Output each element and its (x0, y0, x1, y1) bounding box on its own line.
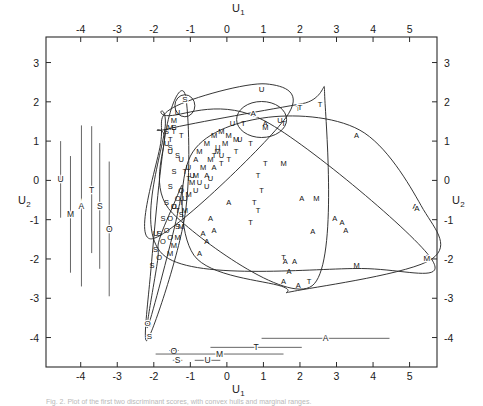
svg-text:-2: -2 (444, 253, 453, 265)
svg-text:-4: -4 (76, 23, 85, 35)
svg-text:T: T (226, 155, 231, 164)
svg-text:A: A (212, 163, 217, 172)
svg-text:A: A (286, 267, 291, 276)
svg-text:A: A (251, 109, 257, 118)
svg-text:5: 5 (407, 23, 413, 35)
svg-text:T: T (259, 186, 264, 195)
svg-text:S: S (182, 95, 187, 104)
svg-text:T: T (263, 159, 268, 168)
svg-text:-3: -3 (113, 370, 122, 382)
svg-text:A: A (208, 214, 213, 223)
scatter-plot: -4-4-3-3-2-2-1-100112233445533221100-1-1… (0, 0, 483, 406)
svg-text:T: T (256, 171, 261, 180)
svg-text:T: T (256, 206, 261, 215)
svg-text:S: S (147, 332, 152, 341)
svg-text:A: A (201, 229, 206, 238)
svg-text:S: S (168, 182, 173, 191)
svg-text:O: O (175, 194, 181, 203)
svg-text:2: 2 (297, 23, 303, 35)
svg-text:T: T (298, 103, 303, 112)
svg-text:A: A (354, 131, 359, 140)
svg-text:T: T (281, 253, 286, 262)
svg-text:A: A (226, 198, 231, 207)
svg-text:S: S (97, 201, 103, 211)
svg-text:O: O (167, 233, 173, 242)
svg-text:M: M (353, 261, 359, 270)
svg-text:U: U (182, 194, 187, 203)
svg-text:O: O (171, 202, 177, 211)
svg-text:A: A (292, 257, 297, 266)
svg-text:U: U (204, 355, 210, 365)
svg-text:U: U (277, 116, 282, 125)
svg-text:U: U (237, 135, 242, 144)
svg-text:T: T (241, 119, 246, 128)
svg-text:T: T (234, 147, 239, 156)
svg-text:U: U (58, 174, 64, 184)
svg-text:M: M (262, 123, 268, 132)
svg-text:4: 4 (370, 370, 376, 382)
svg-text:-2: -2 (30, 253, 39, 265)
svg-text:M: M (216, 349, 223, 359)
axis-tick-labels: -4-4-3-3-2-2-1-100112233445533221100-1-1… (30, 23, 454, 382)
svg-text:A: A (332, 214, 337, 223)
svg-text:A: A (281, 277, 286, 286)
svg-text:3: 3 (33, 57, 39, 69)
svg-text:A: A (414, 204, 420, 213)
svg-text:-3: -3 (113, 23, 122, 35)
svg-text:3: 3 (444, 57, 450, 69)
svg-text:U: U (204, 182, 209, 191)
svg-text:A: A (197, 249, 202, 258)
figure-panel: -4-4-3-3-2-2-1-100112233445533221100-1-1… (0, 0, 483, 406)
svg-text:T: T (179, 131, 184, 140)
svg-text:5: 5 (407, 370, 413, 382)
svg-text:S: S (175, 355, 181, 365)
svg-text:T: T (254, 342, 259, 352)
svg-text:-2: -2 (149, 23, 158, 35)
svg-text:U: U (208, 174, 213, 183)
svg-text:T: T (212, 151, 217, 160)
svg-text:A: A (343, 226, 348, 235)
svg-text:0: 0 (444, 174, 450, 186)
svg-text:S: S (171, 167, 176, 176)
x-axis-label-bottom: U1 (232, 383, 245, 398)
svg-text:2: 2 (444, 96, 450, 108)
svg-text:U: U (230, 119, 235, 128)
svg-text:S: S (149, 261, 154, 270)
svg-text:-3: -3 (30, 292, 39, 304)
svg-text:T: T (248, 139, 253, 148)
svg-text:0: 0 (33, 174, 39, 186)
svg-text:M: M (204, 139, 210, 148)
svg-text:S: S (168, 143, 173, 152)
svg-text:A: A (193, 155, 198, 164)
svg-text:U: U (189, 171, 194, 180)
svg-text:M: M (211, 131, 217, 140)
svg-text:O: O (144, 319, 150, 328)
svg-text:A: A (204, 237, 209, 246)
svg-text:-2: -2 (149, 370, 158, 382)
svg-text:T: T (219, 159, 224, 168)
svg-text:-1: -1 (444, 214, 453, 226)
svg-text:4: 4 (370, 23, 376, 35)
svg-text:1: 1 (261, 23, 267, 35)
svg-text:M: M (226, 131, 232, 140)
svg-text:-4: -4 (444, 332, 453, 344)
svg-text:A: A (299, 194, 304, 203)
svg-text:-1: -1 (30, 214, 39, 226)
svg-text:A: A (79, 201, 85, 211)
svg-text:U: U (259, 85, 265, 94)
svg-text:S: S (171, 123, 176, 132)
svg-text:T: T (318, 100, 323, 109)
svg-text:1: 1 (33, 135, 39, 147)
svg-text:T: T (248, 218, 253, 227)
svg-text:S: S (164, 127, 169, 136)
svg-text:A: A (296, 281, 301, 290)
svg-text:2: 2 (297, 370, 303, 382)
svg-text:S: S (175, 151, 180, 160)
svg-text:-1: -1 (186, 370, 195, 382)
svg-text:0: 0 (224, 23, 230, 35)
svg-text:S: S (179, 210, 184, 219)
svg-text:U: U (193, 186, 198, 195)
svg-text:2: 2 (33, 96, 39, 108)
figure-caption: Fig. 2. Plot of the first two discrimina… (46, 398, 446, 406)
svg-text:O: O (156, 253, 162, 262)
